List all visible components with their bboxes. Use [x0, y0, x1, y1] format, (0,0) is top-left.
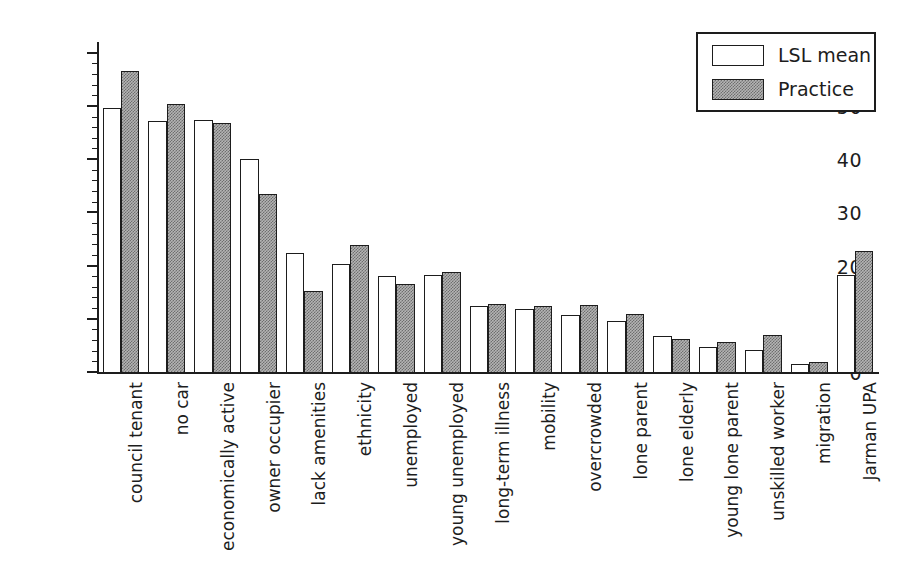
- x-axis-tick-label: lone parent: [633, 382, 650, 479]
- y-axis-major-tick: [87, 371, 98, 373]
- bar-practice: [763, 335, 781, 373]
- bar-practice: [534, 306, 552, 373]
- x-axis-tick-label: young unemployed: [449, 382, 466, 546]
- x-axis-tick-label: no car: [174, 382, 191, 435]
- bar-group: [603, 43, 649, 373]
- bar-practice: [396, 284, 414, 373]
- bar-group: [144, 43, 190, 373]
- bar-practice: [580, 305, 598, 373]
- legend-entry-practice: Practice: [712, 77, 854, 101]
- bar-practice: [350, 245, 368, 373]
- bar-group: [419, 43, 465, 373]
- bar-practice: [167, 104, 185, 373]
- bar-practice: [626, 314, 644, 373]
- x-axis-tick-label: mobility: [541, 382, 558, 451]
- y-axis-major-tick: [87, 265, 98, 267]
- bar-lsl-mean: [470, 306, 488, 373]
- x-axis-tick-label: long-term illness: [495, 382, 512, 524]
- y-axis-major-tick: [87, 318, 98, 320]
- bar-group: [511, 43, 557, 373]
- bar-lsl-mean: [286, 253, 304, 373]
- x-axis-tick-label: young lone parent: [724, 382, 741, 538]
- x-axis-tick-label: overcrowded: [587, 382, 604, 492]
- bar-lsl-mean: [424, 275, 442, 373]
- y-axis-major-tick: [87, 158, 98, 160]
- x-axis-tick-label: Jarman UPA: [862, 382, 879, 481]
- legend-label-practice: Practice: [778, 80, 854, 99]
- bar-practice: [809, 362, 827, 373]
- x-axis-tick-label: economically active: [220, 382, 237, 551]
- bar-practice: [855, 251, 873, 373]
- bar-chart: % of population 0102030405060 council te…: [0, 0, 899, 573]
- bar-lsl-mean: [148, 121, 166, 373]
- legend-swatch-practice-icon: [712, 79, 764, 100]
- bar-practice: [213, 123, 231, 373]
- x-axis-tick-label: unemployed: [403, 382, 420, 488]
- bar-lsl-mean: [607, 321, 625, 373]
- bar-lsl-mean: [378, 276, 396, 373]
- bar-practice: [304, 291, 322, 373]
- bar-group: [557, 43, 603, 373]
- bar-practice: [442, 272, 460, 373]
- y-axis-major-tick: [87, 105, 98, 107]
- bar-practice: [259, 194, 277, 373]
- bar-lsl-mean: [103, 108, 121, 373]
- x-axis-tick-label: ethnicity: [357, 382, 374, 456]
- x-axis-tick-label: lone elderly: [679, 382, 696, 482]
- bar-lsl-mean: [791, 364, 809, 373]
- bar-lsl-mean: [653, 336, 671, 373]
- bar-group: [465, 43, 511, 373]
- bar-group: [649, 43, 695, 373]
- bar-lsl-mean: [332, 264, 350, 373]
- bar-group: [327, 43, 373, 373]
- x-axis-tick-label: owner occupier: [266, 382, 283, 513]
- bar-group: [98, 43, 144, 373]
- bar-group: [373, 43, 419, 373]
- bar-practice: [121, 71, 139, 373]
- bar-lsl-mean: [561, 315, 579, 373]
- bar-lsl-mean: [194, 120, 212, 373]
- bar-lsl-mean: [745, 350, 763, 373]
- bar-lsl-mean: [837, 275, 855, 373]
- bar-practice: [672, 339, 690, 373]
- y-axis-major-tick: [87, 211, 98, 213]
- legend-entry-lsl-mean: LSL mean: [712, 43, 871, 67]
- bar-practice: [488, 304, 506, 373]
- bar-practice: [717, 342, 735, 373]
- y-axis-major-tick: [87, 52, 98, 54]
- bar-group: [236, 43, 282, 373]
- x-axis-tick-label: council tenant: [128, 382, 145, 503]
- bar-lsl-mean: [699, 347, 717, 373]
- bar-group: [282, 43, 328, 373]
- bar-lsl-mean: [240, 159, 258, 374]
- x-axis-tick-label: unskilled worker: [770, 382, 787, 521]
- legend-swatch-lsl-mean-icon: [712, 45, 764, 66]
- x-axis-tick-label: migration: [816, 382, 833, 464]
- x-axis-tick-label: lack amenities: [311, 382, 328, 505]
- bar-lsl-mean: [515, 309, 533, 373]
- legend-label-lsl-mean: LSL mean: [778, 46, 871, 65]
- bar-group: [190, 43, 236, 373]
- chart-legend: LSL mean Practice: [696, 32, 876, 112]
